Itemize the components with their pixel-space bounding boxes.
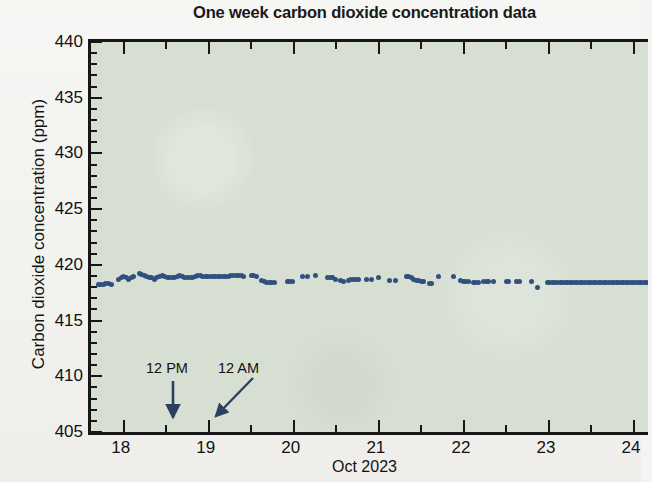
data-point bbox=[290, 279, 295, 284]
y-tick-minor bbox=[91, 242, 97, 244]
annotation-label-midnight: 12 AM bbox=[218, 360, 259, 376]
y-tick-minor bbox=[91, 331, 97, 333]
x-tick-major bbox=[633, 420, 635, 432]
x-axis-title: Oct 2023 bbox=[88, 458, 641, 476]
x-tick-top-minor bbox=[250, 42, 252, 49]
annotation-label-noon: 12 PM bbox=[146, 360, 188, 376]
data-point bbox=[529, 279, 534, 284]
y-tick-label: 435 bbox=[33, 88, 83, 108]
x-tick-major bbox=[208, 420, 210, 432]
data-point bbox=[644, 280, 648, 285]
data-point bbox=[491, 279, 496, 284]
y-tick-minor bbox=[91, 364, 97, 366]
data-point bbox=[466, 279, 471, 284]
y-tick-minor bbox=[91, 386, 97, 388]
data-point bbox=[376, 275, 381, 280]
data-point bbox=[506, 279, 511, 284]
y-tick-label: 410 bbox=[33, 366, 83, 386]
x-axis-tick-labels: 18192021222324 bbox=[88, 438, 648, 460]
x-tick-top-major bbox=[293, 42, 295, 54]
y-tick-minor bbox=[91, 130, 97, 132]
y-tick-minor bbox=[91, 164, 97, 166]
x-tick-major bbox=[463, 420, 465, 432]
y-tick-major bbox=[91, 431, 102, 433]
data-point bbox=[517, 279, 522, 284]
y-tick-minor bbox=[91, 186, 97, 188]
y-tick-major bbox=[91, 41, 102, 43]
x-tick-label: 22 bbox=[431, 438, 491, 458]
x-tick-top-minor bbox=[165, 42, 167, 49]
data-point bbox=[535, 285, 540, 290]
x-tick-major bbox=[548, 420, 550, 432]
y-tick-label: 405 bbox=[33, 422, 83, 442]
x-tick-minor bbox=[590, 425, 592, 432]
y-tick-minor bbox=[91, 219, 97, 221]
data-point bbox=[451, 274, 456, 279]
data-point bbox=[356, 277, 361, 282]
x-tick-minor bbox=[335, 425, 337, 432]
x-tick-top-major bbox=[123, 42, 125, 54]
y-tick-minor bbox=[91, 197, 97, 199]
x-tick-major bbox=[293, 420, 295, 432]
y-tick-minor bbox=[91, 108, 97, 110]
x-tick-label: 24 bbox=[601, 438, 652, 458]
y-tick-minor bbox=[91, 74, 97, 76]
data-point bbox=[369, 277, 374, 282]
y-tick-label: 440 bbox=[33, 32, 83, 52]
y-tick-minor bbox=[91, 275, 97, 277]
y-tick-major bbox=[91, 208, 102, 210]
page-title: One week carbon dioxide concentration da… bbox=[88, 3, 641, 22]
x-tick-major bbox=[378, 420, 380, 432]
data-point bbox=[393, 278, 398, 283]
y-tick-minor bbox=[91, 141, 97, 143]
y-tick-minor bbox=[91, 63, 97, 65]
y-tick-major bbox=[91, 264, 102, 266]
y-tick-minor bbox=[91, 420, 97, 422]
data-point bbox=[272, 280, 277, 285]
y-tick-minor bbox=[91, 253, 97, 255]
data-point bbox=[109, 282, 114, 287]
y-tick-label: 425 bbox=[33, 199, 83, 219]
x-tick-top-minor bbox=[335, 42, 337, 49]
x-tick-minor bbox=[250, 425, 252, 432]
data-point bbox=[131, 274, 136, 279]
x-tick-top-minor bbox=[590, 42, 592, 49]
x-tick-label: 19 bbox=[176, 438, 236, 458]
y-tick-label: 430 bbox=[33, 143, 83, 163]
data-point bbox=[436, 274, 441, 279]
y-tick-label: 420 bbox=[33, 255, 83, 275]
y-tick-major bbox=[91, 97, 102, 99]
x-tick-top-major bbox=[548, 42, 550, 54]
data-point bbox=[387, 278, 392, 283]
x-tick-label: 20 bbox=[261, 438, 321, 458]
x-tick-top-minor bbox=[505, 42, 507, 49]
y-tick-minor bbox=[91, 308, 97, 310]
y-tick-minor bbox=[91, 230, 97, 232]
data-point bbox=[429, 281, 434, 286]
y-tick-minor bbox=[91, 297, 97, 299]
y-tick-minor bbox=[91, 86, 97, 88]
data-point bbox=[313, 273, 318, 278]
data-point bbox=[254, 274, 259, 279]
data-point bbox=[364, 277, 369, 282]
y-axis-tick-labels: 405410415420425430435440 bbox=[27, 39, 83, 435]
x-tick-minor bbox=[420, 425, 422, 432]
y-tick-minor bbox=[91, 409, 97, 411]
x-tick-top-major bbox=[633, 42, 635, 54]
y-tick-minor bbox=[91, 175, 97, 177]
x-tick-top-major bbox=[208, 42, 210, 54]
data-point bbox=[305, 274, 310, 279]
data-point bbox=[241, 274, 246, 279]
y-tick-minor bbox=[91, 353, 97, 355]
data-point bbox=[341, 279, 346, 284]
y-tick-major bbox=[91, 320, 102, 322]
x-tick-top-major bbox=[463, 42, 465, 54]
data-point bbox=[421, 279, 426, 284]
y-tick-major bbox=[91, 152, 102, 154]
x-tick-top-major bbox=[378, 42, 380, 54]
x-tick-label: 21 bbox=[346, 438, 406, 458]
x-tick-label: 23 bbox=[516, 438, 576, 458]
x-tick-top-minor bbox=[420, 42, 422, 49]
x-tick-label: 18 bbox=[91, 438, 151, 458]
